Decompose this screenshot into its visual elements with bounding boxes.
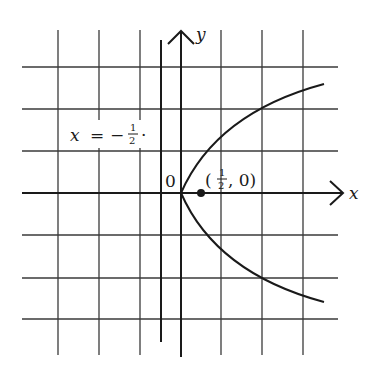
directrix-label-den: 2 <box>129 135 135 146</box>
directrix-label-num: 1 <box>130 122 136 133</box>
focus-label-rest: , 0) <box>228 170 256 190</box>
focus-label-open: ( <box>205 170 212 190</box>
focus-label: ( 1 2 , 0) <box>205 167 256 191</box>
focus-point <box>197 189 205 197</box>
focus-label-num: 1 <box>219 167 225 178</box>
directrix-label-dot: · <box>141 125 146 145</box>
directrix-label-sign: − <box>110 125 124 145</box>
x-axis-label: x <box>349 183 359 203</box>
parabola-diagram: y x 0 x = − 1 2 · ( 1 2 , 0) <box>0 0 381 369</box>
focus-label-den: 2 <box>218 180 224 191</box>
directrix-label-eq: = <box>90 125 104 145</box>
directrix-label-var: x <box>70 125 80 145</box>
origin-label: 0 <box>165 171 176 191</box>
y-axis-label: y <box>195 24 206 44</box>
